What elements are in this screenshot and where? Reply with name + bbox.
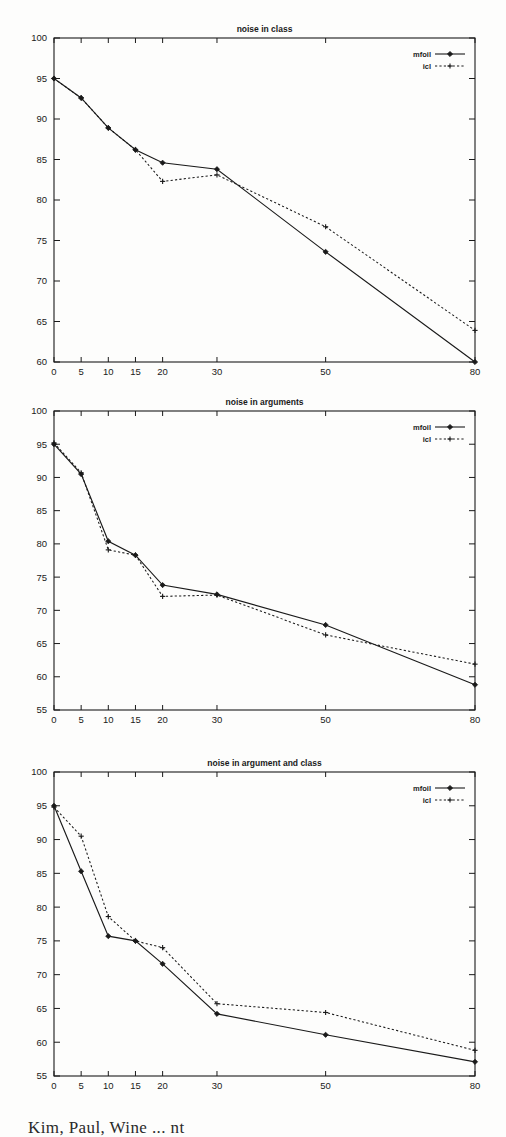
series-icl — [51, 440, 477, 666]
bottom-caption: Kim, Paul, Wine ... nt — [0, 1118, 506, 1137]
y-tick-label: 90 — [36, 834, 47, 845]
data-point-marker — [323, 622, 328, 627]
x-tick-label: 15 — [130, 1080, 141, 1091]
y-tick-label: 100 — [31, 766, 47, 777]
figure-page: noise in class60657075808590951000510152… — [0, 0, 506, 1137]
y-tick-label: 60 — [36, 1037, 47, 1048]
legend-label-icl: icl — [423, 62, 431, 71]
plot-frame — [54, 772, 475, 1076]
legend-label-icl: icl — [423, 435, 431, 444]
series-line — [54, 79, 475, 363]
y-tick-label: 80 — [36, 194, 47, 205]
legend-label-mfoil: mfoil — [413, 423, 431, 432]
data-point-marker — [323, 1032, 328, 1037]
y-tick-label: 95 — [36, 439, 47, 450]
data-point-marker — [106, 539, 111, 544]
x-tick-label: 50 — [320, 366, 331, 377]
x-tick-label: 5 — [79, 714, 84, 725]
y-tick-label: 65 — [36, 1003, 47, 1014]
data-point-marker — [472, 1059, 477, 1064]
legend-label-mfoil: mfoil — [413, 784, 431, 793]
y-tick-label: 95 — [36, 73, 47, 84]
series-icl — [51, 76, 477, 333]
chart-title: noise in class — [237, 24, 293, 34]
x-tick-label: 20 — [157, 366, 168, 377]
data-point-marker — [79, 869, 84, 874]
x-tick-label: 20 — [157, 1080, 168, 1091]
series-mfoil — [51, 76, 477, 365]
chart-1-canvas: noise in class60657075808590951000510152… — [0, 14, 506, 386]
y-tick-label: 85 — [36, 154, 47, 165]
y-tick-label: 55 — [36, 1070, 47, 1081]
data-point-marker — [447, 51, 452, 56]
series-line — [54, 807, 475, 1050]
x-tick-label: 50 — [320, 714, 331, 725]
x-tick-label: 30 — [212, 366, 223, 377]
plot-frame — [54, 411, 475, 710]
x-tick-label: 0 — [51, 714, 56, 725]
chart-noise-in-class: noise in class60657075808590951000510152… — [0, 14, 506, 386]
series-line — [54, 444, 475, 685]
series-mfoil — [51, 442, 477, 688]
y-tick-label: 75 — [36, 572, 47, 583]
data-point-marker — [447, 785, 452, 790]
series-mfoil — [51, 803, 477, 1064]
x-tick-label: 0 — [51, 366, 56, 377]
data-point-marker — [447, 424, 452, 429]
x-tick-label: 10 — [103, 1080, 114, 1091]
series-line — [54, 443, 475, 664]
y-tick-label: 90 — [36, 113, 47, 124]
chart-noise-in-arguments: noise in arguments5560657075808590951000… — [0, 392, 506, 748]
y-tick-label: 60 — [36, 671, 47, 682]
chart-2-canvas: noise in arguments5560657075808590951000… — [0, 392, 506, 748]
data-point-marker — [106, 934, 111, 939]
y-tick-label: 70 — [36, 275, 47, 286]
x-tick-label: 50 — [320, 1080, 331, 1091]
data-point-marker — [472, 682, 477, 687]
x-tick-label: 10 — [103, 714, 114, 725]
y-tick-label: 75 — [36, 235, 47, 246]
chart-noise-in-argument-and-class: noise in argument and class5560657075808… — [0, 752, 506, 1110]
x-tick-label: 80 — [470, 714, 481, 725]
x-tick-label: 5 — [79, 366, 84, 377]
x-tick-label: 15 — [130, 366, 141, 377]
y-tick-label: 65 — [36, 638, 47, 649]
y-tick-label: 70 — [36, 605, 47, 616]
chart-legend: mfoilicl — [413, 423, 465, 444]
y-tick-label: 100 — [31, 405, 47, 416]
x-tick-label: 0 — [51, 1080, 56, 1091]
y-tick-label: 65 — [36, 316, 47, 327]
chart-title: noise in argument and class — [207, 758, 322, 768]
series-line — [54, 806, 475, 1062]
x-tick-label: 80 — [470, 366, 481, 377]
chart-legend: mfoilicl — [413, 784, 465, 805]
y-tick-label: 60 — [36, 356, 47, 367]
x-tick-label: 30 — [212, 714, 223, 725]
series-icl — [51, 805, 477, 1053]
series-line — [54, 79, 475, 331]
y-tick-label: 70 — [36, 969, 47, 980]
legend-label-mfoil: mfoil — [413, 50, 431, 59]
y-tick-label: 90 — [36, 472, 47, 483]
data-point-marker — [160, 160, 165, 165]
y-tick-label: 100 — [31, 32, 47, 43]
y-tick-label: 95 — [36, 800, 47, 811]
x-tick-label: 5 — [79, 1080, 84, 1091]
y-tick-label: 55 — [36, 704, 47, 715]
chart-3-canvas: noise in argument and class5560657075808… — [0, 752, 506, 1110]
plot-frame — [54, 38, 475, 362]
y-tick-label: 80 — [36, 538, 47, 549]
x-tick-label: 10 — [103, 366, 114, 377]
x-tick-label: 80 — [470, 1080, 481, 1091]
chart-legend: mfoilicl — [413, 50, 465, 71]
x-tick-label: 20 — [157, 714, 168, 725]
x-tick-label: 30 — [212, 1080, 223, 1091]
y-tick-label: 80 — [36, 902, 47, 913]
y-tick-label: 85 — [36, 505, 47, 516]
legend-label-icl: icl — [423, 796, 431, 805]
y-tick-label: 85 — [36, 868, 47, 879]
x-tick-label: 15 — [130, 714, 141, 725]
bottom-caption-text: Kim, Paul, Wine ... nt — [0, 1118, 506, 1137]
y-tick-label: 75 — [36, 935, 47, 946]
chart-title: noise in arguments — [226, 397, 304, 407]
